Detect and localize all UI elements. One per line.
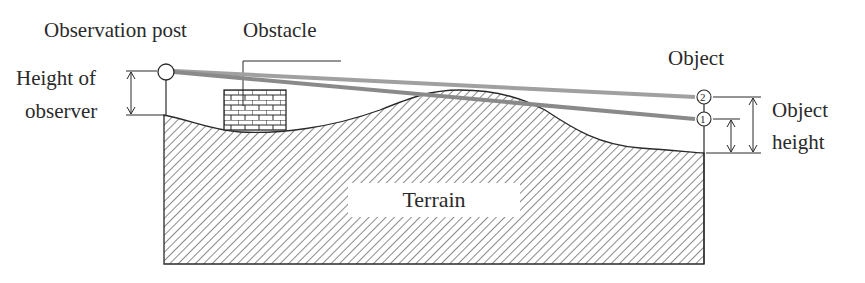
object-height-dimension-arrow-1 bbox=[727, 120, 735, 152]
obstacle-wall bbox=[224, 90, 286, 130]
terrain-label: Terrain bbox=[348, 183, 520, 217]
observation-post-label: Observation post bbox=[44, 18, 187, 42]
observer-eye-marker bbox=[158, 64, 174, 80]
observer-height-dimension-arrow bbox=[127, 72, 135, 114]
object-height-label-line1: Object bbox=[772, 98, 828, 122]
height-of-observer-label-line1: Height of bbox=[16, 66, 96, 90]
obstacle-label: Obstacle bbox=[243, 18, 316, 42]
line-of-sight-diagram bbox=[0, 0, 865, 283]
height-of-observer-label-line2: observer bbox=[25, 99, 97, 123]
point-2-label: 2 bbox=[700, 90, 706, 104]
point-1-label: 1 bbox=[700, 112, 706, 126]
object-height-dimension-arrow-2 bbox=[749, 98, 757, 152]
object-height-label-line2: height bbox=[772, 130, 825, 154]
object-label: Object bbox=[668, 46, 724, 70]
